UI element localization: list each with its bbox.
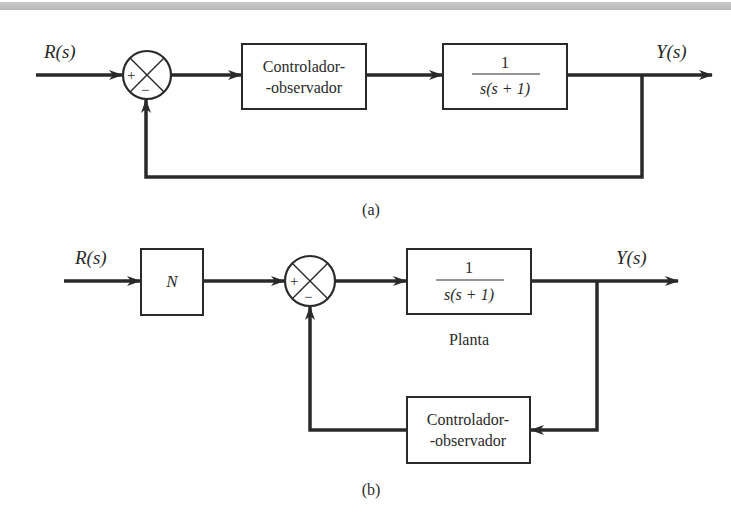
summing-junction-b: + −	[285, 256, 335, 306]
output-label-b: Y(s)	[616, 247, 647, 269]
svg-text:s(s + 1): s(s + 1)	[444, 286, 494, 304]
controller-observer-block-a: Controlador- -observador	[242, 44, 366, 109]
feedback-to-sum-b	[310, 307, 407, 430]
feedback-to-controller-b	[531, 281, 597, 430]
svg-text:Controlador-: Controlador-	[263, 58, 345, 75]
controller-observer-block-b: Controlador- -observador	[407, 397, 530, 463]
gain-block-n: N	[141, 249, 203, 315]
diagram-a: R(s) + − Controlador- -observador 1 s(s …	[36, 41, 712, 219]
svg-text:1: 1	[465, 259, 473, 276]
plant-label: Planta	[449, 331, 489, 348]
input-label-a: R(s)	[43, 41, 76, 63]
caption-b: (b)	[362, 481, 381, 499]
svg-text:Controlador-: Controlador-	[427, 411, 509, 428]
block-diagrams: R(s) + − Controlador- -observador 1 s(s …	[0, 0, 731, 526]
output-label-a: Y(s)	[656, 41, 687, 63]
minus-sign-b: −	[304, 289, 312, 305]
plant-block-a: 1 s(s + 1)	[443, 44, 567, 109]
diagram-b: R(s) N + − 1 s(s + 1) Planta Y(s)	[64, 247, 678, 499]
minus-sign-a: −	[141, 82, 149, 98]
svg-text:-observador: -observador	[430, 432, 507, 449]
svg-text:1: 1	[501, 54, 509, 71]
input-label-b: R(s)	[74, 247, 107, 269]
plant-block-b: 1 s(s + 1)	[407, 249, 531, 314]
plus-sign-b: +	[290, 273, 298, 289]
svg-text:s(s + 1): s(s + 1)	[480, 80, 530, 98]
summing-junction-a: + −	[123, 51, 171, 99]
svg-text:-observador: -observador	[266, 79, 343, 96]
caption-a: (a)	[362, 201, 380, 219]
svg-text:N: N	[165, 272, 179, 291]
plus-sign-a: +	[127, 67, 135, 83]
